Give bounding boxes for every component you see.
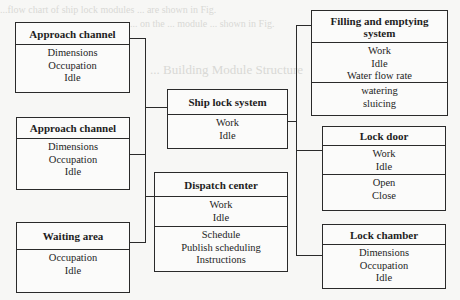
connector-ship-lock-left — [145, 107, 168, 108]
connector-filling-emptying — [296, 25, 312, 26]
box-title: Lock door — [323, 127, 445, 146]
box-attributes: Work Idle — [323, 146, 445, 175]
operation: Schedule — [155, 229, 287, 242]
attribute: Occupation — [17, 154, 129, 167]
box-attributes: Work Idle — [155, 197, 287, 227]
operation: watering — [312, 85, 447, 98]
operation: Close — [323, 190, 445, 203]
attribute: Idle — [16, 72, 129, 85]
attribute: Dimensions — [17, 141, 129, 154]
box-title: Waiting area — [17, 223, 129, 250]
attribute: Work — [155, 199, 287, 212]
box-title: Approach channel — [17, 118, 129, 139]
attribute: Water flow rate — [312, 70, 447, 83]
box-operations: Open Close — [323, 175, 445, 202]
box-attributes: Work Idle — [168, 115, 287, 142]
dispatch-center-box: Dispatch center Work Idle Schedule Publi… — [154, 172, 288, 272]
box-title-line: system — [364, 27, 396, 39]
operation: sluicing — [312, 98, 447, 111]
attribute: Idle — [155, 212, 287, 225]
box-title: Ship lock system — [168, 90, 287, 115]
connector-approach-1 — [130, 38, 146, 39]
attribute: Idle — [17, 166, 129, 179]
box-attributes: Work Idle Water flow rate — [312, 43, 447, 83]
approach-channel-box-1: Approach channel Dimensions Occupation I… — [15, 22, 130, 93]
attribute: Dimensions — [323, 247, 445, 260]
approach-channel-box-2: Approach channel Dimensions Occupation I… — [16, 117, 130, 190]
operation: Publish scheduling — [155, 242, 287, 255]
waiting-area-box: Waiting area Occupation Idle — [16, 222, 130, 293]
operation: Instructions — [155, 254, 287, 267]
attribute: Occupation — [17, 252, 129, 265]
attribute: Work — [323, 148, 445, 161]
connector-left-bus — [145, 38, 146, 243]
ship-lock-system-box: Ship lock system Work Idle — [167, 89, 288, 149]
attribute: Idle — [168, 130, 287, 143]
connector-lock-chamber — [296, 255, 323, 256]
connector-approach-2 — [130, 154, 146, 155]
box-title: Filling and emptying system — [312, 11, 447, 43]
box-title: Approach channel — [16, 23, 129, 45]
connector-lock-door — [296, 150, 323, 151]
box-attributes: Dimensions Occupation Idle — [17, 139, 129, 179]
box-attributes: Occupation Idle — [17, 250, 129, 277]
attribute: Work — [312, 45, 447, 58]
attribute: Occupation — [323, 260, 445, 273]
attribute: Occupation — [16, 60, 129, 73]
attribute: Idle — [17, 265, 129, 278]
connector-waiting-area — [130, 242, 146, 243]
box-title: Dispatch center — [155, 173, 287, 197]
attribute: Idle — [312, 58, 447, 71]
box-title: Lock chamber — [323, 225, 445, 245]
attribute: Work — [168, 117, 287, 130]
connector-right-bus — [296, 25, 297, 256]
attribute: Dimensions — [16, 47, 129, 60]
connector-ship-lock-right — [288, 121, 297, 122]
box-title-line: Filling and emptying — [331, 15, 429, 27]
box-operations: watering sluicing — [312, 83, 447, 110]
lock-door-box: Lock door Work Idle Open Close — [322, 126, 446, 211]
box-attributes: Dimensions Occupation Idle — [16, 45, 129, 85]
lock-chamber-box: Lock chamber Dimensions Occupation Idle — [322, 224, 446, 289]
operation: Open — [323, 177, 445, 190]
box-operations: Schedule Publish scheduling Instructions — [155, 227, 287, 267]
attribute: Idle — [323, 272, 445, 285]
filling-emptying-system-box: Filling and emptying system Work Idle Wa… — [311, 10, 448, 116]
box-attributes: Dimensions Occupation Idle — [323, 245, 445, 285]
attribute: Idle — [323, 161, 445, 174]
